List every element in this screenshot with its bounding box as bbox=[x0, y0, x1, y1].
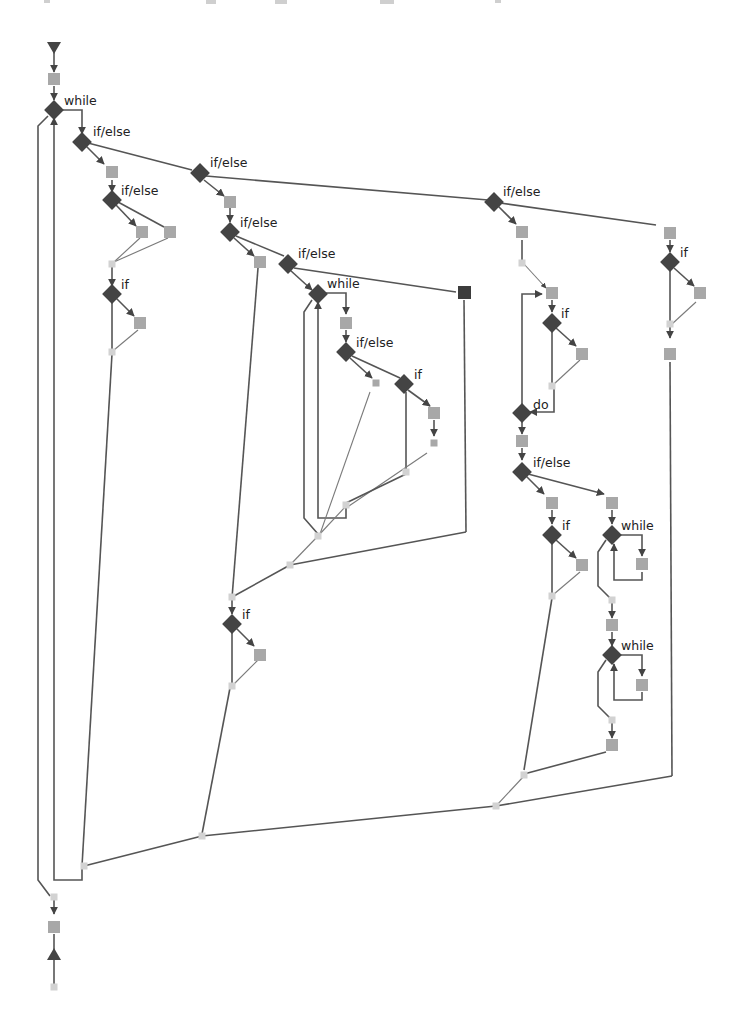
junction-node bbox=[109, 261, 116, 268]
label-while-3: while bbox=[621, 518, 654, 533]
label-ifelse-2: if/else bbox=[210, 155, 248, 170]
label-ifelse-6: if/else bbox=[503, 184, 541, 199]
junction-node bbox=[229, 683, 236, 690]
label-ifelse-3: if/else bbox=[240, 215, 278, 230]
statement-node[interactable] bbox=[546, 497, 558, 509]
junction-node bbox=[667, 321, 674, 328]
label-ifelse-5: if/else bbox=[121, 183, 159, 198]
decision-ifelse-7[interactable] bbox=[336, 342, 356, 362]
junction-node bbox=[315, 533, 322, 540]
statement-node[interactable] bbox=[254, 649, 266, 661]
junction-node bbox=[403, 469, 410, 476]
decision-ifelse-4[interactable] bbox=[278, 254, 298, 274]
junction-node bbox=[51, 894, 58, 901]
statement-node-small[interactable] bbox=[431, 440, 438, 447]
junction-node bbox=[521, 772, 528, 779]
statement-node[interactable] bbox=[164, 226, 176, 238]
label-while-4: while bbox=[621, 638, 654, 653]
junction-node bbox=[519, 260, 526, 267]
junction-node bbox=[609, 717, 616, 724]
label-ifelse-7: if/else bbox=[356, 335, 394, 350]
junction-node bbox=[549, 383, 556, 390]
statement-node[interactable] bbox=[340, 317, 352, 329]
label-if-3: if bbox=[242, 607, 250, 622]
statement-node[interactable] bbox=[636, 558, 648, 570]
decision-ifelse-2[interactable] bbox=[190, 163, 210, 183]
statement-node[interactable] bbox=[48, 921, 60, 933]
junction-node bbox=[229, 594, 236, 601]
label-ifelse-4: if/else bbox=[298, 246, 336, 261]
dark-block-node[interactable] bbox=[458, 286, 471, 299]
statement-node[interactable] bbox=[606, 497, 618, 509]
decision-if-4[interactable] bbox=[660, 252, 680, 272]
labels: while if/else if/else if if/else if/else… bbox=[64, 93, 688, 653]
statement-node[interactable] bbox=[48, 73, 60, 85]
junction-node bbox=[51, 984, 58, 991]
statement-node[interactable] bbox=[254, 256, 266, 268]
control-flow-diagram: while if/else if/else if if/else if/else… bbox=[0, 0, 739, 1032]
junction-node bbox=[343, 502, 350, 509]
statement-node[interactable] bbox=[516, 226, 528, 238]
decision-do-1[interactable] bbox=[512, 403, 532, 423]
junction-node bbox=[549, 593, 556, 600]
label-if-4: if bbox=[680, 245, 688, 260]
statement-node[interactable] bbox=[546, 287, 558, 299]
statement-node[interactable] bbox=[694, 287, 706, 299]
statement-node[interactable] bbox=[606, 619, 618, 631]
label-while-main: while bbox=[64, 93, 97, 108]
junction-node bbox=[287, 562, 294, 569]
label-if-5: if bbox=[561, 306, 569, 321]
statement-node[interactable] bbox=[134, 317, 146, 329]
junction-node bbox=[109, 349, 116, 356]
label-ifelse-8: if/else bbox=[533, 455, 571, 470]
junction-node bbox=[609, 597, 616, 604]
statement-node-small[interactable] bbox=[373, 380, 380, 387]
junction-node bbox=[493, 803, 500, 810]
label-if-1: if bbox=[121, 277, 129, 292]
statement-node[interactable] bbox=[664, 227, 676, 239]
decision-ifelse-3[interactable] bbox=[220, 222, 240, 242]
label-if-2: if bbox=[414, 367, 422, 382]
junction-node bbox=[81, 863, 88, 870]
statement-node[interactable] bbox=[664, 348, 676, 360]
label-ifelse-1: if/else bbox=[93, 124, 131, 139]
statement-node[interactable] bbox=[106, 166, 118, 178]
statement-node[interactable] bbox=[636, 679, 648, 691]
label-while-2: while bbox=[327, 276, 360, 291]
statement-node[interactable] bbox=[428, 407, 440, 419]
cropped-header-fragments bbox=[44, 0, 501, 4]
label-if-6: if bbox=[562, 518, 570, 533]
statement-node[interactable] bbox=[224, 196, 236, 208]
statement-node[interactable] bbox=[576, 559, 588, 571]
end-node[interactable] bbox=[47, 948, 61, 960]
start-node[interactable] bbox=[47, 42, 61, 54]
statement-node[interactable] bbox=[516, 435, 528, 447]
statement-node[interactable] bbox=[606, 739, 618, 751]
statement-node[interactable] bbox=[576, 348, 588, 360]
junction-node bbox=[199, 833, 206, 840]
label-do-1: do bbox=[533, 397, 549, 412]
statement-node[interactable] bbox=[136, 226, 148, 238]
